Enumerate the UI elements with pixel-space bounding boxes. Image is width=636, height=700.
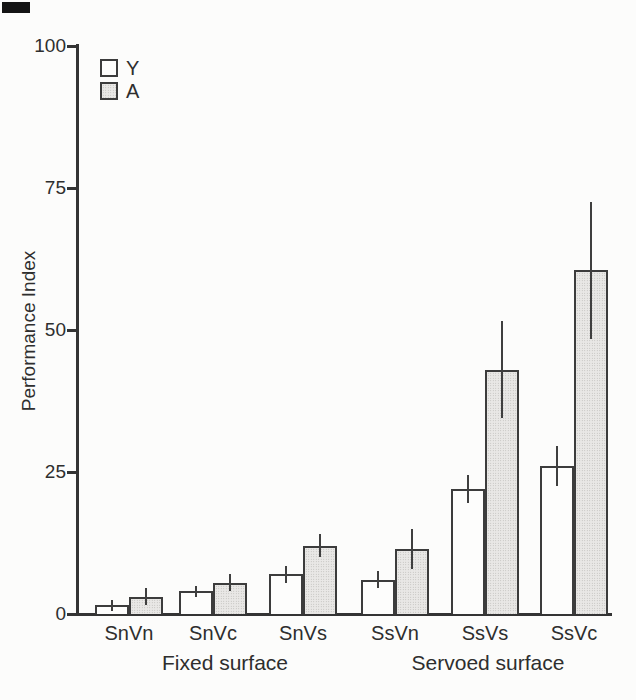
error-bar-SnVn-A <box>145 588 147 605</box>
category-label-SsVs: SsVs <box>462 621 509 645</box>
bar-SsVc-Y <box>540 466 574 614</box>
y-tick <box>67 187 76 190</box>
category-label-SnVn: SnVn <box>105 621 154 645</box>
category-label-SnVc: SnVc <box>189 621 237 645</box>
error-bar-SnVc-A <box>229 574 231 591</box>
error-bar-SnVs-A <box>319 534 321 557</box>
category-label-SsVc: SsVc <box>551 621 598 645</box>
y-tick <box>67 471 76 474</box>
plot-area: 0255075100SnVnSnVcSnVsSsVnSsVsSsVc <box>0 0 636 700</box>
y-tick-label: 25 <box>18 461 66 483</box>
y-tick-label: 75 <box>18 177 66 199</box>
category-label-SnVs: SnVs <box>279 621 327 645</box>
group-label-fixed-surface: Fixed surface <box>162 651 288 675</box>
y-tick <box>67 329 76 332</box>
y-tick-label: 100 <box>18 35 66 57</box>
error-bar-SsVn-Y <box>377 571 379 588</box>
group-label-servoed-surface: Servoed surface <box>412 651 565 675</box>
error-bar-SnVc-Y <box>195 586 197 597</box>
bar-SsVs-Y <box>451 489 485 614</box>
category-label-SsVn: SsVn <box>371 621 419 645</box>
error-bar-SsVs-Y <box>467 475 469 503</box>
y-tick <box>67 613 76 616</box>
y-tick-label: 50 <box>18 319 66 341</box>
error-bar-SnVn-Y <box>111 600 113 611</box>
error-bar-SsVc-A <box>590 202 592 338</box>
error-bar-SsVs-A <box>501 321 503 418</box>
figure-canvas: Performance Index Y A 0255075100SnVnSnVc… <box>0 0 636 700</box>
y-axis-line <box>76 44 79 616</box>
error-bar-SsVn-A <box>411 529 413 569</box>
error-bar-SnVs-Y <box>285 566 287 583</box>
y-tick <box>67 45 76 48</box>
y-tick-label: 0 <box>18 603 66 625</box>
error-bar-SsVc-Y <box>556 446 558 486</box>
